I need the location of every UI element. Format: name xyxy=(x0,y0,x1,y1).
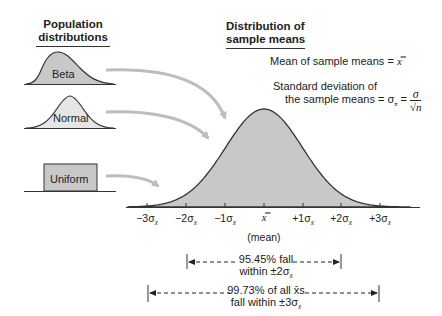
sampling-header-line2: sample means xyxy=(226,33,305,49)
range-95-label: 95.45% fall within ±2σx̄ xyxy=(234,253,298,282)
grand-mean-symbol: x̿ xyxy=(397,55,402,67)
tick-label-plus3: +3σx̄ xyxy=(362,212,398,227)
sigma-over-root-n: σ√n xyxy=(410,88,422,113)
range-99-line1: 99.73% of all x̄s xyxy=(222,284,310,296)
tick-label-minus3: −3σx̄ xyxy=(129,212,165,227)
tick-label-minus1: −1σx̄ xyxy=(207,212,243,227)
sd-formula-text: the sample means = σ xyxy=(285,93,394,105)
mean-axis-label: (mean) xyxy=(240,231,288,243)
arrow-uniform-to-sampling xyxy=(106,176,158,186)
normal-label: Normal xyxy=(53,112,88,124)
tick-label-plus2: +2σx̄ xyxy=(323,212,359,227)
fraction-denominator: √n xyxy=(410,101,422,113)
tick-label-plus1: +1σx̄ xyxy=(285,212,321,227)
range-99-line2: fall within ±3σx̄ xyxy=(222,296,310,313)
population-header-line2: distributions xyxy=(36,31,110,47)
sampling-header-line1: Distribution of xyxy=(226,20,305,33)
fraction-numerator: σ xyxy=(410,88,422,101)
range-99-label: 99.73% of all x̄s fall within ±3σx̄ xyxy=(222,284,310,313)
population-header: Population distributions xyxy=(36,18,110,47)
tick-label-minus2: −2σx̄ xyxy=(168,212,204,227)
uniform-label: Uniform xyxy=(50,173,89,185)
beta-label: Beta xyxy=(52,68,75,80)
sd-formula-line2: the sample means = σx̄ = σ√n xyxy=(285,88,421,113)
population-header-line1: Population xyxy=(36,18,110,31)
sampling-distribution-curve xyxy=(128,109,410,207)
mean-formula: Mean of sample means = x̿ xyxy=(270,55,402,67)
arrow-normal-to-sampling xyxy=(106,112,208,138)
range-95-line2: within ±2σx̄ xyxy=(234,265,298,282)
diagram-canvas xyxy=(0,0,442,316)
range-95-line1: 95.45% fall xyxy=(234,253,298,265)
sd-equals: = xyxy=(397,93,410,105)
sampling-header: Distribution of sample means xyxy=(226,20,305,49)
tick-label-mean: x̿ xyxy=(246,212,282,223)
mean-formula-text: Mean of sample means = xyxy=(270,55,397,67)
